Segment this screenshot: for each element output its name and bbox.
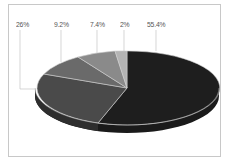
label-9-2: 9.2%: [54, 20, 69, 29]
label-55-4: 55.4%: [147, 20, 165, 29]
label-7-4: 7.4%: [90, 20, 105, 29]
pie-chart: [0, 0, 230, 166]
label-2: 2%: [120, 20, 129, 29]
label-26: 26%: [16, 20, 29, 29]
